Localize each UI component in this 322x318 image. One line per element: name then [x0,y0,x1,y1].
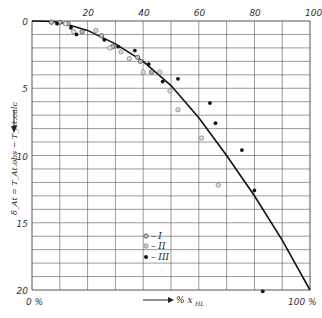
point-series-III [75,33,79,37]
point-series-I [80,30,84,34]
point-series-II [127,56,131,60]
point-series-I [138,59,142,63]
y-tick-label: 0 [22,17,28,27]
x-axis-subscript: HL [194,300,204,307]
point-series-III [253,189,257,193]
point-series-I [135,55,139,59]
point-series-II [94,28,98,32]
x-tick-label: 80 [249,8,261,18]
point-series-III [176,77,180,81]
point-series-III [69,26,73,30]
point-series-III [208,101,212,105]
x-tick-label: 40 [138,8,150,18]
point-series-I [149,70,153,74]
point-series-II [158,70,162,74]
x-axis-title: % x [176,295,193,305]
point-series-II [176,108,180,112]
y-axis-label: δ_At = T_At.obs − T_At.calc [10,101,19,215]
y-tick-label: 5 [22,84,28,94]
legend-marker-I [144,234,148,238]
point-series-III [240,148,244,152]
grid [32,21,310,290]
legend-marker-III [144,255,148,259]
point-series-III [261,289,265,293]
point-series-III [214,121,218,125]
legend-label-II: – II [151,241,166,251]
x-tick-label: 20 [83,8,95,18]
y-tick-label: 15 [17,219,29,229]
point-series-III [133,49,137,53]
point-series-II [108,46,112,50]
y-axis-title: δ_At = T_At.obs − T_At.calc [10,101,19,215]
legend-label-III: – III [151,252,169,262]
point-series-II [216,183,220,187]
legend: – I – II – III [144,231,170,262]
x-axis-label: % x HL [143,295,204,307]
point-series-II [63,21,67,25]
point-series-III [116,45,120,49]
chart: 2040608010005101520 – I – II – III 0 % 1… [0,0,322,318]
point-series-II [168,89,172,93]
point-series-III [102,38,106,42]
x-tick-label: 100 [305,8,322,18]
point-series-III [147,62,151,66]
axis-ticks: 2040608010005101520 [17,8,322,296]
point-series-II [119,50,123,54]
y-tick-label: 20 [17,286,29,296]
point-series-III [55,22,59,26]
point-series-II [141,70,145,74]
legend-label-I: – I [151,231,162,241]
point-series-I [49,20,53,24]
legend-marker-II [144,244,148,248]
arrow-head-icon [168,297,174,303]
x-tick-label: 60 [194,8,206,18]
point-series-I [99,34,103,38]
x-zero-label: 0 % [26,297,43,307]
x-hundred-label: 100 % [288,297,317,307]
point-series-III [161,80,165,84]
point-series-II [199,136,203,140]
